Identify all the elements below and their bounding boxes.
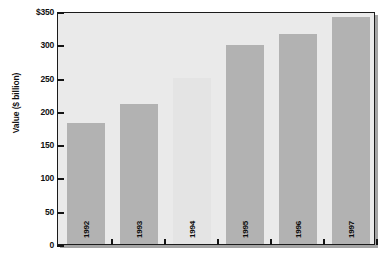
bar-chart: Value ($ billion) 050100150200250300$350… <box>0 0 390 264</box>
plot-frame: 199219931994199519961997 <box>57 12 375 245</box>
bar-1997: 1997 <box>332 17 370 244</box>
y-axis-tick <box>57 12 64 14</box>
bar-label-1994: 1994 <box>188 221 197 238</box>
bar-label-1995: 1995 <box>241 221 250 238</box>
y-axis-tick <box>57 145 64 147</box>
y-axis-tick-label: 200 <box>20 108 54 116</box>
y-axis-tick <box>57 79 64 81</box>
y-axis-tick-label: 0 <box>20 241 54 249</box>
y-axis-tick <box>57 245 64 247</box>
bar-label-1997: 1997 <box>347 221 356 238</box>
bar-1994: 1994 <box>173 78 211 244</box>
y-axis-tick <box>57 178 64 180</box>
bar-label-1993: 1993 <box>135 221 144 238</box>
y-axis-tick <box>57 212 64 214</box>
y-axis-tick-label: 300 <box>20 41 54 49</box>
plot-area: 199219931994199519961997 <box>58 13 374 244</box>
y-axis-tick <box>57 45 64 47</box>
y-axis-tick-label: 100 <box>20 174 54 182</box>
x-axis-tick <box>323 239 325 245</box>
y-axis-tick-label: 50 <box>20 208 54 216</box>
x-axis-tick <box>164 239 166 245</box>
x-axis-tick <box>111 239 113 245</box>
y-axis-tick-labels: 050100150200250300$350 <box>18 0 54 264</box>
bar-label-1996: 1996 <box>294 221 303 238</box>
bar-1996: 1996 <box>279 34 317 244</box>
bar-label-1992: 1992 <box>82 221 91 238</box>
x-axis-tick <box>217 239 219 245</box>
y-axis-tick-label: $350 <box>20 8 54 16</box>
bar-1992: 1992 <box>67 123 105 244</box>
x-axis-tick <box>270 239 272 245</box>
y-axis-tick-label: 250 <box>20 75 54 83</box>
x-axis-tick <box>376 239 378 245</box>
bar-1995: 1995 <box>226 45 264 244</box>
bar-1993: 1993 <box>120 104 158 244</box>
y-axis-tick <box>57 112 64 114</box>
y-axis-tick-label: 150 <box>20 141 54 149</box>
